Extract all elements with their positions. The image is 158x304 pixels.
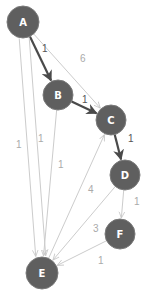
- edge-weight-label: 1: [134, 196, 140, 207]
- edge-weight-label: 3: [93, 223, 99, 234]
- node-label: E: [39, 268, 46, 279]
- nodes-layer: ABCDFE: [7, 6, 140, 289]
- graph-diagram: 11161114311 ABCDFE: [0, 0, 158, 304]
- node-c: C: [96, 105, 126, 135]
- edge-a-e: [29, 38, 46, 256]
- edge-weight-label: 1: [38, 133, 44, 144]
- edge-weight-label: 1: [82, 94, 88, 105]
- edge-e-c: [49, 135, 105, 259]
- edge-weight-label: 1: [98, 255, 104, 266]
- node-label: D: [121, 170, 129, 181]
- node-label: F: [117, 229, 124, 240]
- node-d: D: [110, 160, 140, 190]
- node-label: A: [19, 17, 27, 28]
- node-f: F: [105, 219, 135, 249]
- edge-a-b: [30, 36, 51, 80]
- node-label: C: [107, 115, 114, 126]
- node-a: A: [7, 6, 39, 38]
- edge-weight-label: 6: [80, 53, 86, 64]
- edge-weight-label: 1: [16, 139, 22, 150]
- edge-c-d: [115, 135, 121, 160]
- node-b: B: [43, 80, 73, 110]
- edge-d-e: [53, 186, 115, 260]
- edge-d-f: [121, 190, 123, 218]
- edge-weight-label: 1: [128, 133, 134, 144]
- node-label: B: [54, 90, 62, 101]
- edge-b-e: [44, 110, 57, 256]
- edge-weight-label: 4: [88, 184, 94, 195]
- edge-a-e: [19, 38, 36, 256]
- node-e: E: [26, 257, 58, 289]
- edge-weight-label: 1: [42, 43, 48, 54]
- edge-weight-label: 1: [58, 159, 64, 170]
